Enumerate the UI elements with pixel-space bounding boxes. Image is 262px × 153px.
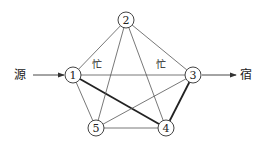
edge-3-5 [96,75,193,128]
edge-3-4 [166,75,193,128]
busy-label-1: 忙 [92,58,102,70]
node-5: 5 [88,120,104,136]
source-label: 源 [14,68,26,82]
busy-label-2: 忙 [156,58,166,70]
node-4-label: 4 [163,122,170,135]
node-5-label: 5 [93,122,100,135]
edge-1-4 [73,75,166,128]
edge-2-5 [96,20,126,128]
network-diagram: 源 宿 忙 忙 1 2 3 4 5 [0,0,262,153]
edge-1-5 [73,75,96,128]
sink-label: 宿 [240,67,252,82]
node-1: 1 [65,67,81,83]
edges [73,20,193,128]
node-1-label: 1 [70,69,77,82]
node-2: 2 [118,12,134,28]
node-3: 3 [185,67,201,83]
node-3-label: 3 [190,69,197,82]
node-2-label: 2 [123,14,130,27]
node-4: 4 [158,120,174,136]
